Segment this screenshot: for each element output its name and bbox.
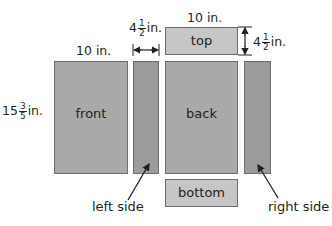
dimension-lines [0, 0, 332, 226]
side-width-dimension-arrow [133, 44, 159, 56]
right-side-pointer-arrow [258, 165, 278, 198]
left-side-pointer-arrow [128, 164, 149, 200]
top-height-dimension-arrow [238, 27, 252, 55]
